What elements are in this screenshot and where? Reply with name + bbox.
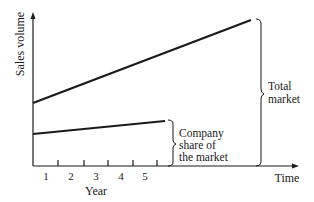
company-share-label-line2: share of (179, 139, 216, 151)
x-axis-label: Time (275, 171, 300, 185)
y-axis-arrow-icon (31, 12, 36, 19)
y-axis-label: Sales volume (13, 12, 27, 76)
company-share-line (33, 121, 165, 134)
total-market-label-line2: market (268, 93, 301, 105)
x-ticks (58, 160, 157, 166)
tick-label-2: 2 (68, 170, 74, 182)
total-market-line (33, 20, 251, 103)
tick-label-1: 1 (43, 170, 49, 182)
x-sub-label: Year (85, 184, 107, 198)
total-market-brace-icon (256, 19, 264, 166)
tick-label-5: 5 (142, 170, 148, 182)
sales-volume-diagram: 1 2 3 4 5 Year Time Sales volume Total m… (0, 0, 314, 202)
tick-label-3: 3 (93, 170, 99, 182)
company-share-brace-icon (168, 120, 176, 166)
tick-label-4: 4 (118, 170, 124, 182)
total-market-label-line1: Total (268, 80, 291, 92)
x-axis-arrow-icon (292, 164, 299, 169)
company-share-label-line3: the market (179, 151, 229, 163)
